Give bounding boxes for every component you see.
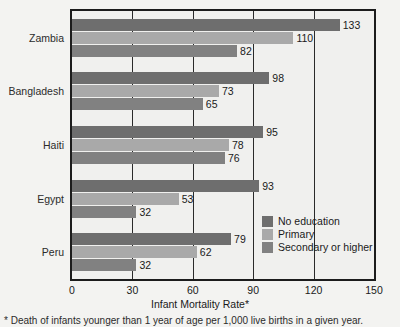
category-label-haiti: Haiti: [43, 140, 64, 151]
x-tick-60: 60: [187, 285, 199, 296]
bar-value-label: 93: [259, 180, 274, 191]
bar-row: 93: [72, 180, 374, 192]
bar-value-label: 98: [269, 73, 284, 84]
bar-row: 95: [72, 126, 374, 138]
bar-row: 65: [72, 98, 374, 110]
bar-group: 987365: [72, 65, 374, 119]
bar-row: 82: [72, 45, 374, 57]
bar-row: 133: [72, 19, 374, 31]
bar-bangladesh-primary: [72, 85, 219, 97]
bar-haiti-secondary-or-higher: [72, 152, 225, 164]
bar-row: 98: [72, 72, 374, 84]
category-label-zambia: Zambia: [29, 33, 64, 44]
x-tick-90: 90: [247, 285, 259, 296]
bar-value-label: 78: [229, 140, 244, 151]
bar-egypt-secondary-or-higher: [72, 206, 136, 218]
legend-swatch-icon: [262, 229, 273, 240]
category-label-peru: Peru: [42, 247, 64, 258]
legend-item-primary: Primary: [262, 229, 373, 240]
bar-egypt-primary: [72, 193, 179, 205]
bar-value-label: 62: [197, 247, 212, 258]
bar-haiti-primary: [72, 139, 229, 151]
chart-footnote: * Death of infants younger than 1 year o…: [4, 316, 363, 326]
bar-haiti-no-education: [72, 126, 263, 138]
bar-zambia-primary: [72, 32, 293, 44]
bar-value-label: 65: [203, 99, 218, 110]
legend-label: No education: [278, 216, 340, 227]
legend-swatch-icon: [262, 216, 273, 227]
legend-label: Secondary or higher: [278, 242, 373, 253]
x-axis-title: Infant Mortality Rate*: [0, 299, 400, 310]
bar-value-label: 32: [136, 260, 151, 271]
bar-zambia-secondary-or-higher: [72, 45, 237, 57]
bar-value-label: 32: [136, 206, 151, 217]
chart-legend: No educationPrimarySecondary or higher: [262, 216, 373, 253]
bar-row: 73: [72, 85, 374, 97]
bar-row: 110: [72, 32, 374, 44]
bar-zambia-no-education: [72, 19, 340, 31]
bar-value-label: 76: [225, 153, 240, 164]
bar-row: 78: [72, 139, 374, 151]
bar-group: 957876: [72, 118, 374, 172]
category-label-bangladesh: Bangladesh: [9, 86, 64, 97]
bar-peru-secondary-or-higher: [72, 259, 136, 271]
bar-peru-no-education: [72, 233, 231, 245]
bar-egypt-no-education: [72, 180, 259, 192]
bar-bangladesh-secondary-or-higher: [72, 98, 203, 110]
x-tick-120: 120: [305, 285, 323, 296]
bar-value-label: 53: [179, 193, 194, 204]
bar-row: 76: [72, 152, 374, 164]
bar-value-label: 110: [293, 33, 313, 44]
x-tick-150: 150: [365, 285, 383, 296]
bar-peru-primary: [72, 246, 197, 258]
legend-item-secondary-or-higher: Secondary or higher: [262, 242, 373, 253]
x-tick-0: 0: [69, 285, 75, 296]
bar-value-label: 95: [263, 127, 278, 138]
bar-row: 32: [72, 259, 374, 271]
bar-row: 53: [72, 193, 374, 205]
x-tick-30: 30: [127, 285, 139, 296]
bar-group: 13311082: [72, 11, 374, 65]
bar-bangladesh-no-education: [72, 72, 269, 84]
bar-value-label: 82: [237, 46, 252, 57]
bar-value-label: 133: [340, 20, 361, 31]
bar-value-label: 73: [219, 86, 234, 97]
legend-item-no-education: No education: [262, 216, 373, 227]
legend-swatch-icon: [262, 242, 273, 253]
legend-label: Primary: [278, 229, 314, 240]
bar-value-label: 79: [231, 234, 246, 245]
category-label-egypt: Egypt: [37, 194, 64, 205]
infant-mortality-bar-chart: 13311082987365957876935332796232 ZambiaB…: [0, 0, 400, 327]
